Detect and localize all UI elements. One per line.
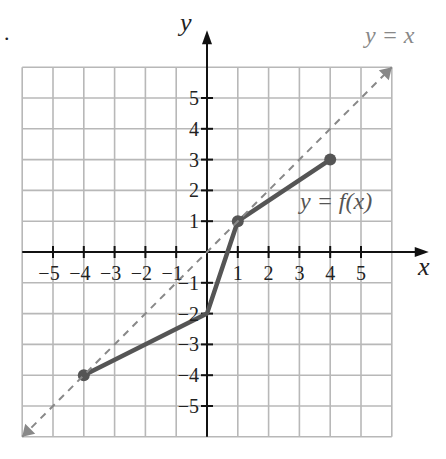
x-tick-label: −3 [100, 262, 121, 284]
y-tick-label: 2 [189, 179, 199, 201]
x-tick-label: −4 [69, 262, 90, 284]
x-axis-label: x [418, 252, 430, 282]
identity-line-label: y = x [365, 22, 415, 49]
x-tick-label: −5 [38, 262, 59, 284]
y-axis-arrow-icon [202, 30, 212, 44]
x-tick-label: 2 [264, 262, 274, 284]
y-tick-label: −1 [178, 272, 199, 294]
coordinate-plane: −5−4−3−2−112345−5−4−3−2−112345 [0, 0, 446, 459]
point-marker [324, 154, 336, 166]
x-tick-label: 5 [356, 262, 366, 284]
function-label: y = f(x) [300, 188, 372, 215]
y-tick-label: 4 [189, 118, 199, 140]
x-tick-label: 1 [233, 262, 243, 284]
y-tick-label: 1 [189, 210, 199, 232]
x-tick-label: 3 [294, 262, 304, 284]
y-tick-label: −3 [178, 333, 199, 355]
x-tick-label: 4 [325, 262, 335, 284]
y-axis-label: y [180, 8, 192, 38]
y-tick-label: −2 [178, 303, 199, 325]
x-tick-label: −2 [131, 262, 152, 284]
y-tick-label: −5 [178, 395, 199, 417]
y-tick-label: −4 [178, 364, 199, 386]
y-tick-label: 3 [189, 149, 199, 171]
y-tick-label: 5 [189, 87, 199, 109]
